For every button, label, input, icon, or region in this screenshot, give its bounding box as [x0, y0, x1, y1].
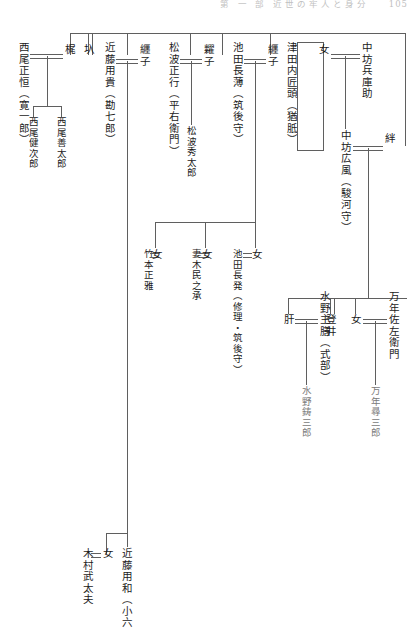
person-kondo-mochitaka: 近藤用貴（勘七郎） — [104, 42, 115, 146]
person-kimo: 肝 — [283, 314, 294, 326]
kizuna-lineage-drop — [405, 33, 406, 146]
person-mannen-sazaemon: 万年佐左衛門 — [388, 291, 399, 360]
running-header-text: 第 一 部 近世の牢人と身分 105 — [220, 0, 408, 9]
person-onna-e: 女 — [350, 314, 361, 326]
sibling-drop-matsunami — [190, 33, 191, 55]
person-kizuna: 絆 — [384, 133, 395, 145]
person-iri: 圦 — [83, 44, 94, 56]
child-drop-matsunami-hidetaro — [191, 61, 192, 125]
child-drop-nakabo-hirokaze — [345, 56, 346, 129]
person-nishio-kenjiro: 西尾健次郎 — [28, 117, 38, 170]
child-drop-onna-c — [205, 222, 206, 248]
child-drop-nishio-kenjiro — [33, 106, 34, 117]
child-drop-mannen-jinzaburo — [375, 321, 376, 385]
sibling-drop-kondo — [127, 33, 128, 55]
person-onna-c: 女 — [201, 249, 212, 261]
nakabo-children-trunk — [368, 148, 369, 298]
child-drop-kondo-mochikazu — [127, 533, 128, 547]
child-drop-kimo — [288, 298, 289, 314]
person-ikeda-nagaoki: 池田長発（修理・筑後守） — [232, 249, 242, 375]
page-number: 105 — [389, 0, 408, 9]
person-itoko-3: 纒子 — [267, 44, 278, 67]
child-drop-nishio — [47, 56, 48, 106]
person-itoko-2: 糶子 — [203, 44, 214, 67]
child-drop-mizuno-ryuzaburo — [306, 321, 307, 385]
person-mannen-jinzaburo: 万年尋三郎 — [370, 386, 380, 439]
child-drop-nishio-zentaro — [61, 106, 62, 117]
person-kaji: 梶 — [64, 44, 75, 56]
child-drop-onna-b — [155, 222, 156, 248]
person-mizuno-ryuzaburo: 水野鋳三郎 — [301, 386, 311, 439]
person-ikeda-nagausu: 池田長薄（筑後守） — [232, 42, 243, 146]
person-nakabo-hirokaze: 中坊広風（駿河守） — [340, 130, 351, 234]
person-kondo-mochikazu: 近藤用和（小六） — [121, 548, 132, 628]
tsuda-bracket-top — [297, 42, 324, 43]
tsuda-bracket-right — [323, 42, 324, 151]
person-nakabo-hyogonosuke: 中坊兵庫助 — [361, 42, 372, 100]
sibling-drop-ikeda — [222, 33, 223, 55]
union-link-kimura-onna — [91, 553, 101, 558]
person-onna-f: 女 — [102, 548, 113, 560]
sibling-bar-kondo-bottom — [106, 533, 128, 534]
person-itoko-1: 纒子 — [139, 44, 150, 67]
person-toi: 登井 — [325, 314, 336, 337]
kondo-main-trunk — [127, 61, 128, 533]
running-head-title: 第 一 部 近世の牢人と身分 — [220, 0, 369, 9]
sibling-bar-nishio-children — [33, 106, 62, 107]
person-onna-b: 女 — [151, 249, 162, 261]
top-sibling-bar — [70, 33, 406, 34]
child-drop-onna-e — [355, 298, 356, 314]
person-onna-a: 女 — [318, 44, 329, 56]
running-header: 第 一 部 近世の牢人と身分 105 — [0, 0, 420, 9]
tsuda-bracket-left — [297, 42, 298, 150]
person-mizuno-shuzen: 水野主膳（式部） — [319, 291, 330, 383]
tsuda-bracket-bottom — [297, 150, 324, 151]
person-onna-d: 女 — [251, 249, 262, 261]
person-nishio-zentaro: 西尾善太郎 — [56, 117, 66, 170]
ikeda-branch-trunk — [255, 61, 256, 248]
person-tsuda-takumi: 津田内匠頭（猶胝） — [286, 42, 297, 146]
person-matsunami-hidetaro: 松波秀太郎 — [186, 126, 196, 179]
genealogy-page: 第 一 部 近世の牢人と身分 105 西尾正恒（寛一郎） 梶 圦 西尾健次郎 西 — [0, 0, 420, 628]
person-matsunami-masayuki: 松波正行（平右衛門） — [168, 42, 179, 157]
